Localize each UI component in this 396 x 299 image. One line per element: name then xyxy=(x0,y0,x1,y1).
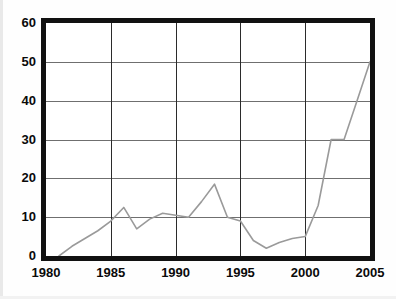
x-tick-label: 2000 xyxy=(291,266,320,280)
y-tick-label: 20 xyxy=(2,171,36,184)
series-line-chart xyxy=(46,23,370,256)
y-tick-label: 0 xyxy=(2,249,36,262)
y-tick-label: 40 xyxy=(2,94,36,107)
y-tick-label: 30 xyxy=(2,133,36,146)
x-tick-label: 1995 xyxy=(226,266,255,280)
x-tick-label: 1980 xyxy=(32,266,61,280)
y-tick-label: 60 xyxy=(2,16,36,29)
x-axis-tick-labels: 198019851990199520002005 xyxy=(0,266,396,288)
y-tick-label: 50 xyxy=(2,55,36,68)
y-tick-label: 10 xyxy=(2,210,36,223)
x-tick-label: 1985 xyxy=(96,266,125,280)
series-1-line xyxy=(59,62,370,256)
y-axis-tick-labels: 0102030405060 xyxy=(0,0,36,299)
x-tick-label: 1990 xyxy=(161,266,190,280)
chart-figure: 0102030405060 198019851990199520002005 xyxy=(0,0,396,299)
plot-frame xyxy=(41,18,375,261)
x-tick-label: 2005 xyxy=(356,266,385,280)
plot-area xyxy=(46,23,370,256)
